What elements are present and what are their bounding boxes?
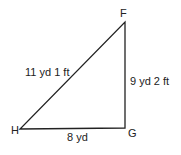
side-label-hg: 8 yd — [67, 131, 88, 143]
vertex-label-g: G — [128, 127, 137, 139]
vertex-label-f: F — [120, 7, 127, 19]
triangle-diagram: F G H 11 yd 1 ft 9 yd 2 ft 8 yd — [0, 0, 181, 155]
side-label-hf: 11 yd 1 ft — [25, 66, 69, 78]
vertex-label-h: H — [11, 124, 19, 136]
side-label-fg: 9 yd 2 ft — [130, 75, 169, 87]
